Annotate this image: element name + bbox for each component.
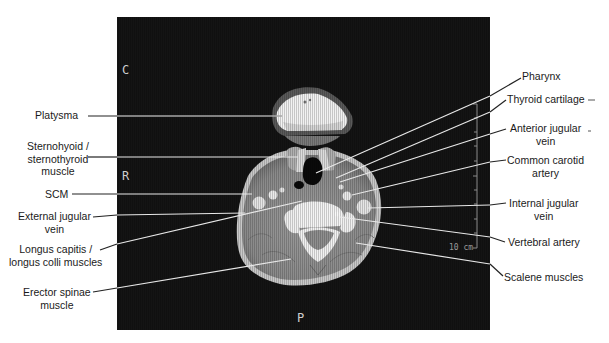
marker-p: P [297, 311, 304, 325]
label-vertebral-artery: Vertebral artery [508, 236, 580, 249]
label-erector: Erector spinae muscle [23, 286, 91, 311]
label-anterior-jugular: Anterior jugular vein [510, 122, 581, 147]
marker-r: R [122, 169, 130, 183]
label-internal-jugular: Internal jugular vein [509, 197, 578, 222]
scale-bar-label: 10 cm [449, 243, 473, 252]
ct-figure: C R P 10 cm [0, 0, 609, 343]
label-scalene: Scalene muscles [504, 271, 583, 284]
label-common-carotid: Common carotid artery [507, 154, 584, 179]
label-longus: Longus capitis / longus colli muscles [9, 243, 102, 268]
label-scm: SCM [45, 188, 68, 201]
label-platysma: Platysma [35, 109, 78, 122]
label-sternohyoid: Sternohyoid / sternothyroid muscle [27, 140, 89, 178]
label-pharynx: Pharynx [522, 70, 561, 83]
label-external-jugular: External jugular vein [18, 210, 91, 235]
label-thyroid-cartilage: Thyroid cartilage [507, 93, 585, 106]
marker-c: C [122, 63, 129, 77]
